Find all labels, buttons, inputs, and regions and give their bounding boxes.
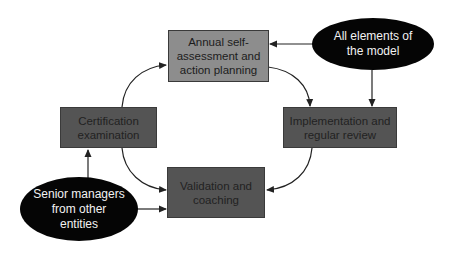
ellipse-label-line: entities <box>33 217 124 232</box>
node-label-line: Implementation and <box>289 114 390 128</box>
node-certification-examination: Certification examination <box>60 107 157 148</box>
node-label-line: Certification <box>77 114 139 128</box>
ellipse-label-line: Senior managers <box>33 187 124 202</box>
ellipse-label-line: from other <box>33 202 124 217</box>
node-label-line: examination <box>77 128 139 142</box>
ellipse-label-line: All elements of <box>334 29 413 44</box>
input-senior-managers: Senior managers from other entities <box>20 177 138 241</box>
node-implementation-review: Implementation and regular review <box>283 107 397 148</box>
node-label-line: Annual self- <box>177 35 261 49</box>
node-label-line: Validation and <box>180 179 252 193</box>
ellipse-label-line: the model <box>334 44 413 59</box>
node-label-line: coaching <box>180 193 252 207</box>
arrow-certification-to-annual <box>122 65 166 107</box>
arrow-implementation-to-validation <box>267 148 312 190</box>
node-label-line: action planning <box>177 63 261 77</box>
node-annual-self-assessment: Annual self- assessment and action plann… <box>168 30 269 82</box>
node-label-line: assessment and <box>177 49 261 63</box>
input-all-elements-of-model: All elements of the model <box>312 18 434 70</box>
arrow-certification-to-validation <box>122 148 166 190</box>
node-label-line: regular review <box>289 128 390 142</box>
arrow-annual-to-implementation <box>268 67 310 106</box>
node-validation-coaching: Validation and coaching <box>167 167 265 218</box>
